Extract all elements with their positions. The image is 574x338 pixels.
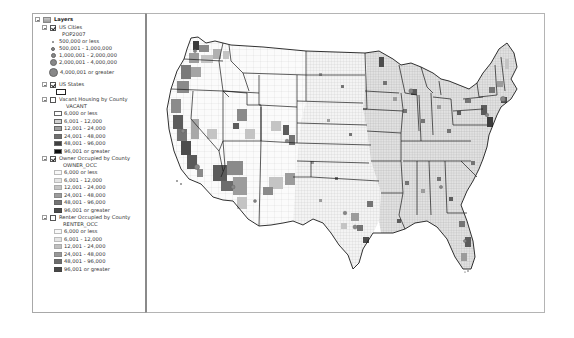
class-swatch: [54, 149, 62, 154]
legend-class: 6,000 or less: [54, 169, 98, 176]
class-swatch: [54, 252, 62, 257]
class-swatch: [54, 267, 62, 272]
layer-renter-occupied[interactable]: Renter Occupied by County: [42, 214, 130, 221]
layers-root[interactable]: Layers: [35, 16, 73, 23]
layer-name: US Cities: [59, 24, 82, 31]
collapse-icon[interactable]: [42, 82, 47, 87]
layer-owner-occupied[interactable]: Owner Occupied by County: [42, 155, 130, 162]
legend-class: [56, 88, 66, 95]
layer-name: US States: [59, 81, 84, 88]
us-county-map[interactable]: [147, 14, 545, 313]
city-symbol-icon: [49, 68, 58, 77]
legend-class: 4,000,001 or greater: [49, 68, 114, 77]
legend-class: 500,001 - 1,000,000: [49, 45, 112, 52]
class-swatch: [54, 237, 62, 242]
layer-visibility-checkbox[interactable]: [50, 25, 56, 31]
field-name: RENTER_OCC: [63, 221, 98, 228]
layer-name: Owner Occupied by County: [59, 155, 130, 162]
class-swatch: [54, 178, 62, 183]
layer-name: Vacant Housing by County: [59, 96, 128, 103]
layer-name: Renter Occupied by County: [59, 214, 130, 221]
legend-class: 48,001 - 96,000: [54, 258, 105, 265]
collapse-icon[interactable]: [42, 156, 47, 161]
layer-vacant-housing[interactable]: Vacant Housing by County: [42, 96, 128, 103]
legend-class: 96,001 or greater: [54, 148, 110, 155]
table-of-contents: Layers US Cities POP2007 500,000 or less…: [32, 13, 146, 313]
class-swatch: [54, 111, 62, 116]
legend-class: 12,001 - 24,000: [54, 184, 105, 191]
legend-class: 1,000,001 - 2,000,000: [49, 52, 117, 59]
legend-class: 6,001 - 12,000: [54, 236, 102, 243]
legend-class: 12,001 - 24,000: [54, 243, 105, 250]
class-swatch: [54, 185, 62, 190]
layers-root-label: Layers: [54, 16, 73, 23]
field-name: OWNER_OCC: [63, 162, 97, 169]
collapse-icon[interactable]: [42, 25, 47, 30]
class-swatch: [54, 134, 62, 139]
legend-class: 6,001 - 12,000: [54, 177, 102, 184]
legend-class: 96,001 or greater: [54, 207, 110, 214]
city-symbol-icon: [51, 47, 55, 51]
layer-us-cities[interactable]: US Cities: [42, 24, 82, 31]
field-name: POP2007: [62, 31, 86, 38]
legend-class: 96,001 or greater: [54, 266, 110, 273]
class-swatch: [54, 193, 62, 198]
city-symbol-icon: [51, 53, 56, 58]
layer-visibility-checkbox[interactable]: [50, 215, 56, 221]
class-swatch: [54, 170, 62, 175]
legend-class: 12,001 - 24,000: [54, 125, 105, 132]
collapse-icon[interactable]: [35, 17, 40, 22]
class-swatch: [54, 229, 62, 234]
layers-icon: [43, 17, 51, 23]
legend-class: 24,001 - 48,000: [54, 251, 105, 258]
layer-visibility-checkbox[interactable]: [50, 156, 56, 162]
city-symbol-icon: [50, 59, 57, 66]
class-swatch: [54, 141, 62, 146]
map-display[interactable]: [146, 13, 545, 313]
field-name: VACANT: [66, 103, 87, 110]
collapse-icon[interactable]: [42, 97, 47, 102]
city-symbol-icon: [52, 41, 54, 43]
legend-class: 2,000,001 - 4,000,000: [49, 59, 117, 66]
class-swatch: [54, 126, 62, 131]
collapse-icon[interactable]: [42, 215, 47, 220]
legend-class: 24,001 - 48,000: [54, 133, 105, 140]
legend-class: 500,000 or less: [49, 38, 99, 45]
class-swatch: [54, 259, 62, 264]
class-swatch: [54, 119, 62, 124]
state-outline-swatch: [56, 89, 66, 95]
legend-class: 48,001 - 96,000: [54, 140, 105, 147]
legend-class: 24,001 - 48,000: [54, 192, 105, 199]
layer-us-states[interactable]: US States: [42, 81, 84, 88]
class-swatch: [54, 208, 62, 213]
class-swatch: [54, 244, 62, 249]
legend-class: 48,001 - 96,000: [54, 199, 105, 206]
legend-class: 6,000 or less: [54, 228, 98, 235]
layer-visibility-checkbox[interactable]: [50, 97, 56, 103]
class-swatch: [54, 200, 62, 205]
legend-class: 6,001 - 12,000: [54, 118, 102, 125]
layer-visibility-checkbox[interactable]: [50, 82, 56, 88]
legend-class: 6,000 or less: [54, 110, 98, 117]
